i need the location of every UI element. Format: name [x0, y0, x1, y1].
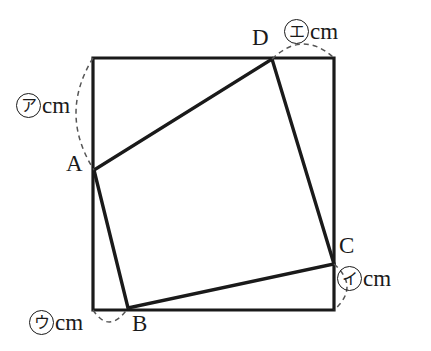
vertex-label-b: B — [132, 312, 147, 335]
measure-label-i: イ cm — [337, 266, 391, 291]
figure-canvas — [0, 0, 431, 351]
inner-quadrilateral — [94, 59, 334, 308]
circled-marker-a: ア — [16, 93, 41, 118]
unit-label-a: cm — [42, 94, 70, 117]
circled-marker-e: エ — [284, 19, 309, 44]
measure-label-a: ア cm — [16, 93, 70, 118]
geometry-figure: A B C D ア cm エ cm イ cm ウ cm — [0, 0, 431, 351]
vertex-label-c: C — [339, 234, 354, 257]
measure-label-e: エ cm — [284, 19, 338, 44]
circled-marker-i: イ — [337, 266, 362, 291]
measure-label-u: ウ cm — [29, 310, 83, 335]
unit-label-e: cm — [310, 20, 338, 43]
vertex-label-a: A — [66, 152, 83, 175]
unit-label-i: cm — [363, 267, 391, 290]
unit-label-u: cm — [55, 311, 83, 334]
circled-marker-u: ウ — [29, 310, 54, 335]
vertex-label-d: D — [252, 26, 269, 49]
